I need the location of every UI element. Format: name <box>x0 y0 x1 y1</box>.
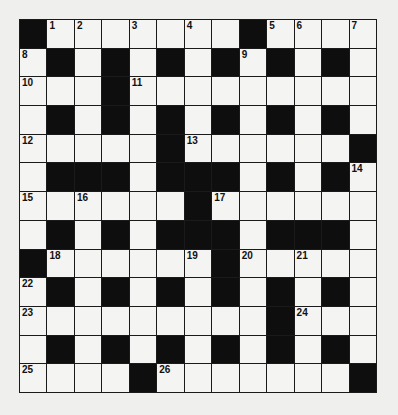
crossword-cell[interactable]: 10 <box>20 77 46 105</box>
crossword-cell[interactable] <box>350 278 376 306</box>
crossword-cell[interactable] <box>295 336 321 364</box>
crossword-cell[interactable] <box>157 250 183 278</box>
crossword-cell[interactable] <box>75 135 101 163</box>
crossword-cell[interactable]: 17 <box>212 192 238 220</box>
crossword-cell[interactable] <box>102 364 128 392</box>
crossword-cell[interactable] <box>130 49 156 77</box>
crossword-cell[interactable] <box>295 106 321 134</box>
crossword-cell[interactable] <box>75 49 101 77</box>
crossword-cell[interactable] <box>350 106 376 134</box>
crossword-cell[interactable] <box>185 49 211 77</box>
crossword-cell[interactable] <box>185 278 211 306</box>
crossword-cell[interactable]: 8 <box>20 49 46 77</box>
crossword-cell[interactable]: 23 <box>20 307 46 335</box>
crossword-cell[interactable]: 14 <box>350 163 376 191</box>
crossword-cell[interactable] <box>47 77 73 105</box>
crossword-cell[interactable] <box>295 278 321 306</box>
crossword-cell[interactable] <box>240 77 266 105</box>
crossword-cell[interactable] <box>212 77 238 105</box>
crossword-cell[interactable] <box>47 364 73 392</box>
crossword-cell[interactable] <box>212 20 238 48</box>
crossword-cell[interactable] <box>240 163 266 191</box>
crossword-cell[interactable] <box>130 163 156 191</box>
crossword-cell[interactable] <box>130 106 156 134</box>
crossword-cell[interactable]: 19 <box>185 250 211 278</box>
crossword-cell[interactable] <box>295 163 321 191</box>
crossword-cell[interactable] <box>130 250 156 278</box>
crossword-cell[interactable] <box>102 20 128 48</box>
crossword-cell[interactable] <box>75 336 101 364</box>
crossword-cell[interactable] <box>240 336 266 364</box>
crossword-cell[interactable] <box>240 278 266 306</box>
crossword-cell[interactable] <box>350 307 376 335</box>
crossword-cell[interactable] <box>75 106 101 134</box>
crossword-cell[interactable] <box>295 135 321 163</box>
crossword-cell[interactable] <box>75 307 101 335</box>
crossword-cell[interactable] <box>157 20 183 48</box>
crossword-cell[interactable]: 7 <box>350 20 376 48</box>
crossword-cell[interactable]: 21 <box>295 250 321 278</box>
crossword-cell[interactable] <box>240 135 266 163</box>
crossword-cell[interactable] <box>75 364 101 392</box>
crossword-cell[interactable] <box>267 135 293 163</box>
crossword-cell[interactable] <box>212 364 238 392</box>
crossword-cell[interactable] <box>130 221 156 249</box>
crossword-cell[interactable] <box>47 135 73 163</box>
crossword-cell[interactable]: 6 <box>295 20 321 48</box>
crossword-cell[interactable] <box>322 135 348 163</box>
crossword-cell[interactable] <box>350 336 376 364</box>
crossword-cell[interactable]: 16 <box>75 192 101 220</box>
crossword-cell[interactable] <box>267 364 293 392</box>
crossword-cell[interactable] <box>267 250 293 278</box>
crossword-cell[interactable] <box>102 192 128 220</box>
crossword-cell[interactable] <box>240 106 266 134</box>
crossword-cell[interactable] <box>350 250 376 278</box>
crossword-cell[interactable] <box>47 307 73 335</box>
crossword-cell[interactable] <box>75 77 101 105</box>
crossword-cell[interactable]: 5 <box>267 20 293 48</box>
crossword-cell[interactable] <box>185 336 211 364</box>
crossword-cell[interactable] <box>185 307 211 335</box>
crossword-cell[interactable]: 12 <box>20 135 46 163</box>
crossword-cell[interactable] <box>295 77 321 105</box>
crossword-cell[interactable] <box>212 307 238 335</box>
crossword-cell[interactable]: 13 <box>185 135 211 163</box>
crossword-cell[interactable] <box>212 135 238 163</box>
crossword-cell[interactable]: 25 <box>20 364 46 392</box>
crossword-cell[interactable] <box>47 192 73 220</box>
crossword-cell[interactable] <box>20 163 46 191</box>
crossword-cell[interactable]: 24 <box>295 307 321 335</box>
crossword-cell[interactable] <box>20 221 46 249</box>
crossword-cell[interactable] <box>130 336 156 364</box>
crossword-cell[interactable] <box>350 77 376 105</box>
crossword-cell[interactable] <box>157 77 183 105</box>
crossword-cell[interactable]: 15 <box>20 192 46 220</box>
crossword-cell[interactable] <box>20 336 46 364</box>
crossword-cell[interactable] <box>130 135 156 163</box>
crossword-cell[interactable] <box>240 192 266 220</box>
crossword-cell[interactable]: 2 <box>75 20 101 48</box>
crossword-cell[interactable] <box>185 77 211 105</box>
crossword-cell[interactable] <box>267 192 293 220</box>
crossword-cell[interactable] <box>322 307 348 335</box>
crossword-cell[interactable]: 20 <box>240 250 266 278</box>
crossword-cell[interactable] <box>350 49 376 77</box>
crossword-cell[interactable] <box>157 192 183 220</box>
crossword-cell[interactable] <box>75 221 101 249</box>
crossword-cell[interactable] <box>75 250 101 278</box>
crossword-cell[interactable]: 9 <box>240 49 266 77</box>
crossword-cell[interactable] <box>322 364 348 392</box>
crossword-cell[interactable] <box>322 20 348 48</box>
crossword-cell[interactable] <box>75 278 101 306</box>
crossword-cell[interactable] <box>185 106 211 134</box>
crossword-cell[interactable] <box>130 192 156 220</box>
crossword-cell[interactable] <box>295 49 321 77</box>
crossword-cell[interactable] <box>350 221 376 249</box>
crossword-cell[interactable] <box>102 307 128 335</box>
crossword-cell[interactable]: 18 <box>47 250 73 278</box>
crossword-cell[interactable] <box>130 278 156 306</box>
crossword-cell[interactable] <box>350 192 376 220</box>
crossword-cell[interactable]: 11 <box>130 77 156 105</box>
crossword-cell[interactable]: 26 <box>157 364 183 392</box>
crossword-cell[interactable]: 22 <box>20 278 46 306</box>
